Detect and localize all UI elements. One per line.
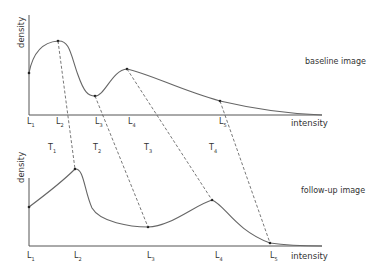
baseline-level-l2: L2 — [56, 117, 64, 128]
mapping-line-l5 — [220, 101, 270, 243]
baseline-title: baseline image — [305, 57, 366, 66]
followup-x-axis-label: intensity — [291, 251, 328, 261]
baseline-y-axis-label: density — [16, 17, 26, 48]
histogram-mapping-diagram — [0, 0, 376, 278]
transform-t4: T4 — [209, 143, 217, 154]
mapping-line-l2 — [58, 41, 75, 169]
followup-level-l4: L4 — [215, 251, 223, 262]
followup-title: follow-up image — [301, 186, 365, 195]
followup-level-l5: L5 — [270, 251, 278, 262]
transform-t3: T3 — [144, 143, 152, 154]
baseline-density-curve — [29, 41, 322, 115]
followup-density-curve — [29, 169, 322, 246]
followup-level-l2: L2 — [74, 251, 82, 262]
baseline-level-l3: L3 — [95, 117, 103, 128]
baseline-level-l4: L4 — [128, 117, 136, 128]
baseline-x-axis-label: intensity — [291, 118, 328, 128]
mapping-line-l3 — [95, 96, 148, 227]
followup-y-axis-label: density — [16, 152, 26, 183]
transform-t2: T2 — [93, 143, 101, 154]
baseline-level-l5: L5 — [219, 117, 227, 128]
transform-t1: T1 — [48, 143, 56, 154]
mapping-line-l4 — [127, 69, 212, 200]
followup-level-l1: L1 — [27, 251, 35, 262]
followup-level-l3: L3 — [147, 251, 155, 262]
baseline-level-l1: L1 — [27, 117, 35, 128]
